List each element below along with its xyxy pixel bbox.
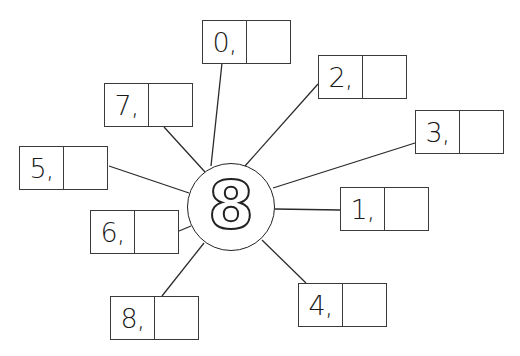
spoke-box-1: 1,	[340, 187, 429, 231]
spoke-line-3	[273, 143, 415, 188]
spoke-label: 6,	[91, 211, 135, 253]
spoke-line-1	[275, 209, 340, 210]
answer-cell[interactable]	[64, 147, 107, 189]
answer-cell[interactable]	[363, 56, 406, 98]
spoke-label: 1,	[341, 188, 385, 230]
spoke-line-5	[109, 166, 189, 193]
multiplication-wheel: 8 0, 2, 3, 1, 4, 8, 6, 5, 7,	[0, 0, 520, 356]
spoke-label: 2,	[319, 56, 363, 98]
spoke-box-7: 7,	[104, 83, 193, 127]
spoke-label: 5,	[20, 147, 64, 189]
spoke-box-6: 6,	[90, 210, 179, 254]
spoke-label: 4,	[299, 284, 343, 326]
spoke-box-2: 2,	[318, 55, 407, 99]
spoke-box-8: 8,	[110, 296, 199, 340]
answer-cell[interactable]	[155, 297, 198, 339]
center-circle: 8	[187, 163, 275, 251]
answer-cell[interactable]	[247, 21, 290, 63]
spoke-line-2	[245, 84, 318, 166]
spoke-box-3: 3,	[415, 110, 504, 154]
spoke-line-0	[211, 63, 222, 166]
spoke-box-4: 4,	[298, 283, 387, 327]
spoke-label: 3,	[416, 111, 460, 153]
answer-cell[interactable]	[385, 188, 428, 230]
spoke-label: 7,	[105, 84, 149, 126]
answer-cell[interactable]	[343, 284, 386, 326]
center-number: 8	[208, 173, 254, 239]
spoke-box-5: 5,	[19, 146, 108, 190]
answer-cell[interactable]	[135, 211, 178, 253]
answer-cell[interactable]	[460, 111, 503, 153]
spoke-box-0: 0,	[202, 20, 291, 64]
spoke-label: 8,	[111, 297, 155, 339]
spoke-line-6	[179, 226, 191, 231]
spoke-line-7	[164, 127, 205, 172]
answer-cell[interactable]	[149, 84, 192, 126]
spoke-line-4	[262, 240, 306, 283]
spoke-label: 0,	[203, 21, 247, 63]
